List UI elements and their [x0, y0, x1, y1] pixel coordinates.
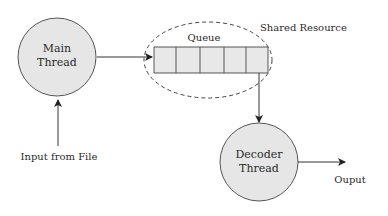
- decoder-thread-label-line2: Thread: [239, 162, 279, 175]
- main-thread-node: Main Thread: [18, 18, 96, 96]
- queue-node: Queue: [154, 32, 268, 73]
- output-label: Ouput: [334, 174, 366, 185]
- input-label: Input from File: [21, 151, 98, 162]
- decoder-thread-label-line1: Decoder: [236, 148, 284, 161]
- main-thread-label-line1: Main: [43, 42, 71, 55]
- main-thread-label-line2: Thread: [37, 56, 77, 69]
- decoder-thread-node: Decoder Thread: [220, 123, 298, 201]
- shared-resource-label: Shared Resource: [260, 22, 347, 33]
- diagram-canvas: Main Thread Input from File Shared Resou…: [0, 0, 388, 216]
- queue-label: Queue: [188, 32, 221, 43]
